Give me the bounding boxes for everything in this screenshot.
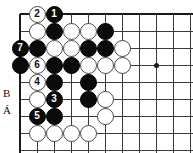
star-point bbox=[154, 63, 159, 68]
stone-move-number: 6 bbox=[34, 60, 40, 70]
numbered-stone-black: 1 bbox=[46, 6, 63, 23]
grid-line-vertical bbox=[190, 14, 191, 153]
stone-white bbox=[63, 40, 80, 57]
stone-move-number: 1 bbox=[51, 9, 57, 19]
stone-move-number: 2 bbox=[34, 9, 40, 19]
grid-line-vertical bbox=[156, 14, 157, 153]
go-board-diagram: 2176435 BÁ bbox=[0, 0, 193, 153]
stone-black bbox=[12, 57, 29, 74]
board-point-label: B bbox=[3, 88, 10, 99]
stone-white bbox=[80, 23, 97, 40]
stone-black bbox=[63, 57, 80, 74]
grid-line-vertical bbox=[19, 14, 21, 153]
stone-white bbox=[97, 108, 114, 125]
stone-black bbox=[46, 74, 63, 91]
stone-white bbox=[29, 125, 46, 142]
grid-line-horizontal bbox=[20, 150, 193, 151]
stone-black bbox=[46, 23, 63, 40]
stone-black bbox=[80, 74, 97, 91]
stone-move-number: 4 bbox=[34, 77, 40, 87]
grid-line-vertical bbox=[139, 14, 140, 153]
stone-white bbox=[46, 40, 63, 57]
stone-white bbox=[29, 91, 46, 108]
stone-white bbox=[63, 125, 80, 142]
stone-white bbox=[63, 23, 80, 40]
numbered-stone-white: 2 bbox=[29, 6, 46, 23]
grid-line-vertical bbox=[122, 14, 123, 153]
stone-white bbox=[80, 57, 97, 74]
stone-black bbox=[46, 108, 63, 125]
stone-move-number: 5 bbox=[34, 111, 40, 121]
stone-white bbox=[114, 57, 131, 74]
stone-black bbox=[80, 40, 97, 57]
numbered-stone-black: 5 bbox=[29, 108, 46, 125]
stone-white bbox=[97, 57, 114, 74]
stone-black bbox=[80, 91, 97, 108]
stone-white bbox=[114, 40, 131, 57]
numbered-stone-black: 3 bbox=[46, 91, 63, 108]
stone-black bbox=[29, 40, 46, 57]
stone-white bbox=[29, 23, 46, 40]
stone-black bbox=[46, 57, 63, 74]
stone-black bbox=[97, 40, 114, 57]
stone-move-number: 3 bbox=[51, 94, 57, 104]
numbered-stone-white: 6 bbox=[29, 57, 46, 74]
numbered-stone-black: 7 bbox=[12, 40, 29, 57]
stone-white bbox=[97, 91, 114, 108]
board-point-label: Á bbox=[3, 105, 11, 116]
numbered-stone-white: 4 bbox=[29, 74, 46, 91]
stone-move-number: 7 bbox=[17, 43, 23, 53]
grid-line-vertical bbox=[173, 14, 174, 153]
stone-white bbox=[46, 125, 63, 142]
stone-black bbox=[97, 23, 114, 40]
stone-white bbox=[80, 125, 97, 142]
